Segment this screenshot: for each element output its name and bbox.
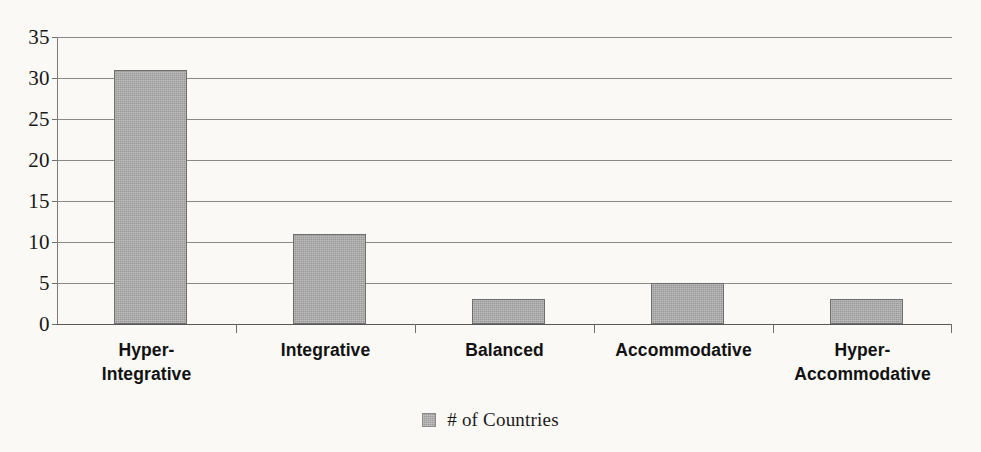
category-separator-tick xyxy=(415,324,416,333)
gridline xyxy=(57,242,952,243)
bar-chart: 35 30 25 20 15 10 5 0 Hyper-I xyxy=(0,0,981,452)
y-tick-label: 25 xyxy=(6,107,50,132)
y-tick-label: 0 xyxy=(6,312,50,337)
axis-end-tick xyxy=(951,324,952,333)
bar-hyper-integrative[interactable] xyxy=(114,70,187,324)
x-axis-labels: Hyper-Integrative Integrative Balanced A… xyxy=(57,338,952,396)
y-tick-label: 10 xyxy=(6,230,50,255)
bar-balanced[interactable] xyxy=(472,299,545,324)
y-tick-label: 30 xyxy=(6,66,50,91)
x-label-hyper-integrative: Hyper-Integrative xyxy=(57,338,236,386)
bar-hyper-accommodative[interactable] xyxy=(830,299,903,324)
bar-integrative[interactable] xyxy=(293,234,366,324)
plot-area xyxy=(57,37,952,324)
x-axis-baseline xyxy=(57,324,952,325)
legend-swatch-countries xyxy=(422,413,436,427)
gridline xyxy=(57,283,952,284)
y-tick-label: 35 xyxy=(6,25,50,50)
y-tick-label: 20 xyxy=(6,148,50,173)
category-separator-tick xyxy=(773,324,774,333)
x-label-accommodative: Accommodative xyxy=(594,338,773,362)
gridline xyxy=(57,78,952,79)
gridline xyxy=(57,160,952,161)
x-label-hyper-accommodative: Hyper-Accommodative xyxy=(773,338,952,386)
bar-accommodative[interactable] xyxy=(651,283,724,324)
y-tick-label: 15 xyxy=(6,189,50,214)
gridline xyxy=(57,201,952,202)
x-label-balanced: Balanced xyxy=(415,338,594,362)
x-label-integrative: Integrative xyxy=(236,338,415,362)
chart-legend: # of Countries xyxy=(0,409,981,431)
y-tick-label: 5 xyxy=(6,271,50,296)
legend-label-countries: # of Countries xyxy=(447,409,559,431)
y-axis-tick-labels: 35 30 25 20 15 10 5 0 xyxy=(0,0,50,452)
category-separator-tick xyxy=(594,324,595,333)
category-separator-tick xyxy=(236,324,237,333)
gridline xyxy=(57,37,952,38)
gridline xyxy=(57,119,952,120)
